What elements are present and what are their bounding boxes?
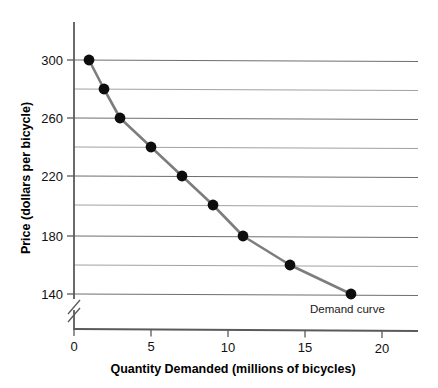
y-tick-label-300: 300: [41, 53, 63, 68]
demand-curve-annotation-label: Demand curve: [310, 303, 385, 315]
data-point-18-140: [346, 289, 357, 300]
y-tick-label-220: 220: [41, 169, 63, 184]
data-point-7-220: [177, 171, 188, 182]
data-point-5-240: [146, 142, 157, 153]
data-point-3-260: [115, 113, 126, 124]
x-tick-label-10: 10: [221, 340, 235, 355]
demand-curve-chart: 300 260 220 180 140 0 5 10 15 20: [0, 0, 438, 388]
y-tick-label-140: 140: [41, 287, 63, 302]
data-point-11-180: [238, 231, 249, 242]
y-axis-title: Price (dollars per bicycle): [19, 102, 33, 254]
x-tick-label-15: 15: [298, 340, 312, 355]
data-point-9-200: [208, 200, 219, 211]
y-tick-label-260: 260: [41, 111, 63, 126]
data-point-2-280: [99, 84, 110, 95]
data-point-14-160: [285, 260, 296, 271]
chart-canvas: 300 260 220 180 140 0 5 10 15 20: [0, 0, 438, 388]
x-tick-label-20: 20: [375, 341, 389, 356]
y-tick-label-180: 180: [41, 229, 63, 244]
x-tick-label-0: 0: [70, 339, 77, 354]
data-point-1-300: [84, 55, 95, 66]
x-axis-title: Quantity Demanded (millions of bicycles): [110, 362, 355, 376]
x-tick-label-5: 5: [147, 339, 154, 354]
